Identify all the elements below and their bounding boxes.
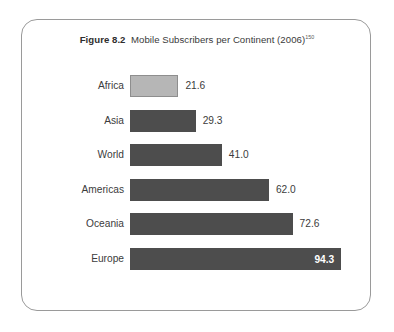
bar-category-label: Americas: [40, 178, 124, 202]
bar-africa: [130, 75, 178, 97]
bar-value-label: 41.0: [229, 143, 249, 167]
figure-title: Figure 8.2 Mobile Subscribers per Contin…: [0, 34, 394, 45]
bar-row: World41.0: [40, 143, 354, 167]
bar-americas: [130, 179, 269, 201]
bar-world: [130, 144, 222, 166]
figure-caption-text: Mobile Subscribers per Continent (2006): [131, 34, 305, 45]
bar-value-label: 72.6: [300, 212, 320, 236]
bar-category-label: Asia: [40, 109, 124, 133]
bar-track: 29.3: [130, 109, 354, 133]
bar-value-label: 21.6: [185, 74, 205, 98]
bar-value-label: 29.3: [203, 109, 223, 133]
bar-row: Asia29.3: [40, 109, 354, 133]
bar-asia: [130, 110, 196, 132]
bar-row: Europe94.3: [40, 247, 354, 271]
figure-number: Figure 8.2: [80, 34, 126, 45]
bar-row: Americas62.0: [40, 178, 354, 202]
bar-value-label: 62.0: [276, 178, 296, 202]
bar-chart: Africa21.6Asia29.3World41.0Americas62.0O…: [40, 74, 354, 284]
bar-oceania: [130, 213, 293, 235]
bar-europe: 94.3: [130, 248, 341, 270]
figure-footnote-marker: 150: [305, 34, 314, 40]
bar-track: 62.0: [130, 178, 354, 202]
bar-track: 21.6: [130, 74, 354, 98]
figure-container: Figure 8.2 Mobile Subscribers per Contin…: [0, 0, 394, 332]
bar-track: 41.0: [130, 143, 354, 167]
bar-category-label: Oceania: [40, 212, 124, 236]
bar-track: 94.3: [130, 247, 354, 271]
bar-category-label: World: [40, 143, 124, 167]
bar-category-label: Africa: [40, 74, 124, 98]
bar-row: Oceania72.6: [40, 212, 354, 236]
bar-track: 72.6: [130, 212, 354, 236]
bar-value-label: 94.3: [314, 249, 334, 271]
bar-category-label: Europe: [40, 247, 124, 271]
bar-row: Africa21.6: [40, 74, 354, 98]
